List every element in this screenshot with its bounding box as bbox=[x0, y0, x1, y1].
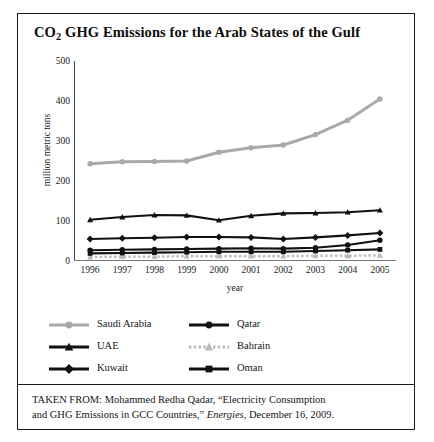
legend-label: Qatar bbox=[237, 318, 260, 329]
x-tick-label: 2002 bbox=[274, 265, 293, 275]
legend-swatch-diamond-icon bbox=[48, 361, 90, 373]
series-line bbox=[90, 99, 380, 164]
data-point-marker bbox=[280, 236, 287, 243]
data-point-marker bbox=[378, 247, 383, 252]
series-canvas bbox=[74, 61, 396, 261]
series-line bbox=[90, 233, 380, 239]
y-tick-label: 100 bbox=[56, 216, 70, 226]
data-point-marker bbox=[120, 159, 125, 164]
legend-label: Oman bbox=[237, 362, 263, 373]
legend-swatch-triangle-icon bbox=[188, 339, 230, 351]
x-tick-label: 1999 bbox=[177, 265, 196, 275]
legend-item-uae[interactable]: UAE bbox=[48, 336, 119, 354]
legend-label: Saudi Arabia bbox=[97, 318, 152, 329]
chart-title-co: CO bbox=[34, 24, 56, 40]
legend-swatch-square-icon bbox=[188, 361, 230, 373]
source-journal: Energies bbox=[207, 409, 244, 420]
data-point-marker bbox=[66, 322, 73, 329]
series-line bbox=[90, 210, 380, 220]
y-tick-label: 300 bbox=[56, 136, 70, 146]
legend-label: Kuwait bbox=[97, 362, 128, 373]
data-point-marker bbox=[248, 234, 255, 241]
data-point-marker bbox=[64, 364, 74, 374]
source-line-2a: and GHG Emissions in GCC Countries,” bbox=[32, 409, 207, 420]
data-point-marker bbox=[345, 242, 350, 247]
series-line bbox=[90, 255, 380, 257]
data-point-marker bbox=[216, 150, 221, 155]
data-point-marker bbox=[377, 96, 382, 101]
legend-swatch-triangle-icon bbox=[48, 339, 90, 351]
legend-item-bahrain[interactable]: Bahrain bbox=[188, 336, 270, 354]
data-point-marker bbox=[87, 236, 94, 243]
data-point-marker bbox=[184, 246, 189, 251]
divider bbox=[18, 384, 414, 385]
data-point-marker bbox=[152, 247, 157, 252]
x-tick-label: 1996 bbox=[81, 265, 100, 275]
legend-label: Bahrain bbox=[237, 340, 270, 351]
x-tick-label: 2005 bbox=[370, 265, 389, 275]
series-kuwait bbox=[87, 230, 384, 243]
legend-item-qatar[interactable]: Qatar bbox=[188, 314, 260, 332]
y-axis-ticks: 0100200300400500 bbox=[40, 49, 70, 274]
data-point-marker bbox=[313, 132, 318, 137]
plot-area: million metric tons 0100200300400500 199… bbox=[18, 49, 416, 304]
data-point-marker bbox=[281, 246, 286, 251]
data-point-marker bbox=[313, 245, 318, 250]
data-point-marker bbox=[248, 246, 253, 251]
data-point-marker bbox=[377, 252, 383, 257]
data-point-marker bbox=[120, 247, 125, 252]
data-point-marker bbox=[345, 118, 350, 123]
x-tick-label: 2004 bbox=[338, 265, 357, 275]
data-point-marker bbox=[87, 161, 92, 166]
x-tick-label: 1998 bbox=[145, 265, 164, 275]
data-point-marker bbox=[206, 322, 213, 329]
data-point-marker bbox=[248, 145, 253, 150]
data-point-marker bbox=[215, 234, 222, 241]
series-line bbox=[90, 240, 380, 250]
y-tick-label: 400 bbox=[56, 96, 70, 106]
chart-title-rest: GHG Emissions for the Arab States of the… bbox=[61, 24, 360, 40]
data-point-marker bbox=[344, 232, 351, 239]
y-tick-label: 0 bbox=[65, 256, 70, 266]
legend-item-oman[interactable]: Oman bbox=[188, 358, 263, 376]
data-point-marker bbox=[119, 235, 126, 242]
legend-item-kuwait[interactable]: Kuwait bbox=[48, 358, 128, 376]
legend-label: UAE bbox=[97, 340, 119, 351]
source-line-1: TAKEN FROM: Mohammed Redha Qadar, “Elect… bbox=[32, 394, 326, 405]
line-series-svg bbox=[74, 61, 396, 261]
data-point-marker bbox=[87, 248, 92, 253]
legend-item-saudi-arabia[interactable]: Saudi Arabia bbox=[48, 314, 152, 332]
chart-legend: Saudi ArabiaQatarUAEBahrainKuwaitOman bbox=[48, 314, 338, 380]
y-tick-label: 200 bbox=[56, 176, 70, 186]
data-point-marker bbox=[151, 234, 158, 241]
legend-swatch-circle-icon bbox=[48, 317, 90, 329]
source-citation: TAKEN FROM: Mohammed Redha Qadar, “Elect… bbox=[32, 392, 400, 422]
data-point-marker bbox=[184, 158, 189, 163]
data-point-marker bbox=[312, 234, 319, 241]
chart-title: CO2 GHG Emissions for the Arab States of… bbox=[34, 24, 404, 42]
data-point-marker bbox=[152, 159, 157, 164]
figure-panel: CO2 GHG Emissions for the Arab States of… bbox=[17, 13, 415, 430]
x-axis-label: year bbox=[74, 283, 396, 293]
series-uae bbox=[87, 207, 383, 222]
data-point-marker bbox=[345, 248, 350, 253]
data-point-marker bbox=[281, 142, 286, 147]
data-point-marker bbox=[377, 238, 382, 243]
data-point-marker bbox=[216, 246, 221, 251]
legend-swatch-circle-icon bbox=[188, 317, 230, 329]
x-tick-label: 2001 bbox=[242, 265, 261, 275]
data-point-marker bbox=[183, 234, 190, 241]
data-point-marker bbox=[205, 343, 214, 351]
series-saudi-arabia bbox=[87, 96, 382, 166]
data-point-marker bbox=[376, 230, 383, 237]
x-axis-ticks: 1996199719981999200020012002200320042005 bbox=[74, 265, 396, 281]
y-tick-label: 500 bbox=[56, 56, 70, 66]
x-tick-label: 1997 bbox=[113, 265, 132, 275]
x-tick-label: 2000 bbox=[209, 265, 228, 275]
source-line-2b: , December 16, 2009. bbox=[244, 409, 334, 420]
x-tick-label: 2003 bbox=[306, 265, 325, 275]
data-point-marker bbox=[206, 366, 213, 373]
